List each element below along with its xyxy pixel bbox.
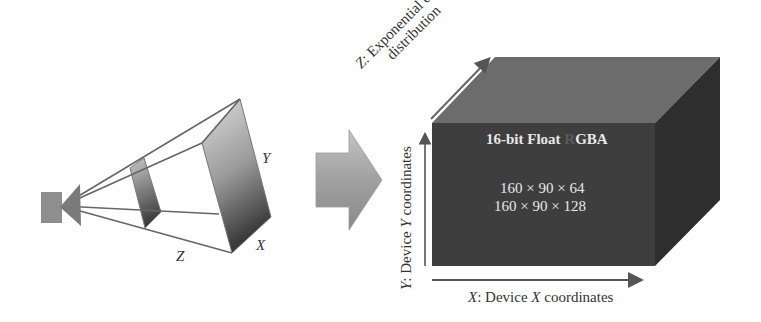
frustum-x-label: X — [256, 237, 265, 254]
frustum-z-label: Z — [176, 248, 184, 265]
y-axis-label: Y: Device Y coordinates — [398, 146, 415, 290]
camera-icon — [41, 192, 62, 223]
volume-dimension-1: 160 × 90 × 64 — [500, 180, 584, 197]
volume-dimension-2: 160 × 90 × 128 — [494, 198, 586, 215]
x-axis-label: X: Device X coordinates — [468, 289, 613, 306]
camera-frustum — [41, 99, 271, 253]
volume-format-label: 16-bit Float RGBA — [486, 131, 608, 148]
frustum-y-label: Y — [262, 150, 270, 167]
camera-lens-icon — [60, 184, 81, 226]
far-plane — [202, 99, 271, 253]
right-arrow-icon — [316, 130, 382, 230]
froxel-volume-cube — [432, 57, 720, 266]
